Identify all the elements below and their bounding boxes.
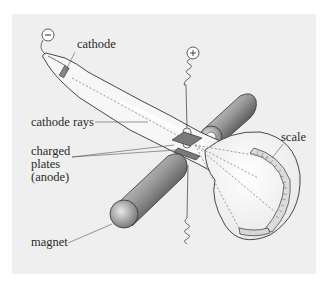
label-cathode: cathode bbox=[77, 38, 116, 51]
label-charged-plates-3: (anode) bbox=[31, 171, 69, 184]
magnet-front bbox=[110, 154, 187, 228]
bottom-coil bbox=[185, 165, 190, 244]
label-cathode-rays: cathode rays bbox=[31, 116, 94, 129]
label-scale: scale bbox=[281, 131, 306, 144]
positive-terminal bbox=[184, 47, 199, 128]
negative-terminal bbox=[41, 29, 54, 54]
label-magnet: magnet bbox=[31, 236, 68, 249]
